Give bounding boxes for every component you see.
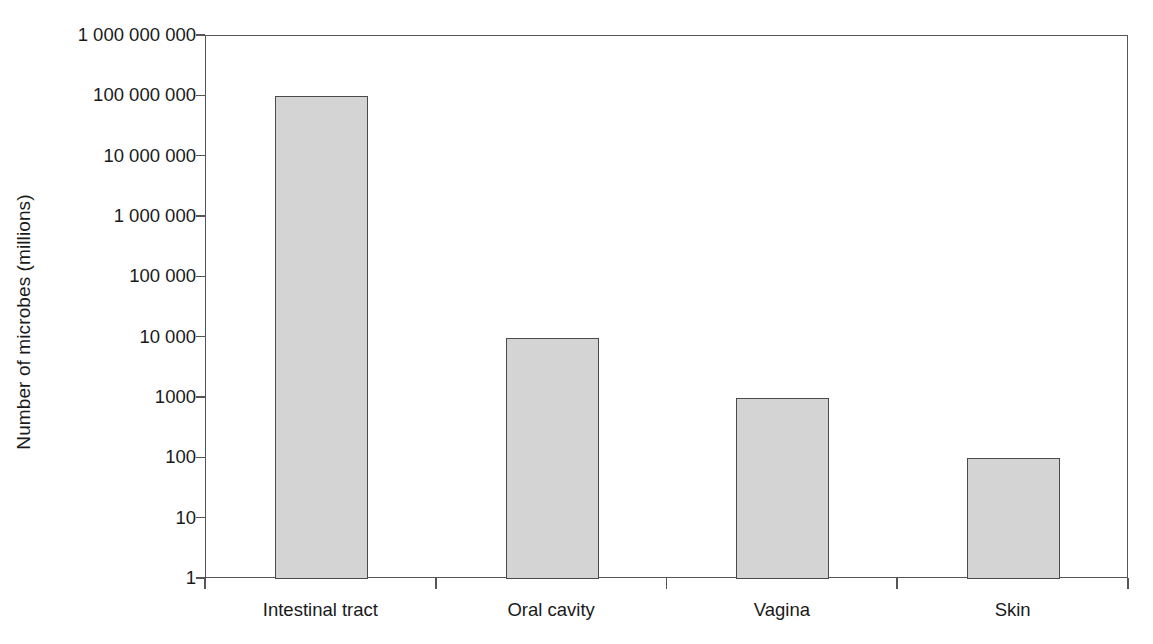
y-tick-mark xyxy=(196,336,205,338)
y-tick-label-text: 100 xyxy=(165,445,196,469)
y-tick-label-text: 10 000 xyxy=(139,325,196,349)
y-tick-mark xyxy=(196,95,205,97)
y-tick-label-text: 100 000 xyxy=(129,264,196,288)
y-tick-mark xyxy=(196,517,205,519)
y-tick-label-text: 1 000 000 xyxy=(114,204,196,228)
y-tick-label-text: 10 xyxy=(175,506,196,530)
y-tick-mark xyxy=(196,34,205,36)
x-category-label: Skin xyxy=(897,596,1128,624)
bar-chart: Number of microbes (millions) 1 000 000 … xyxy=(0,0,1153,644)
y-tick-label: 1 000 000 xyxy=(0,204,196,228)
y-tick-label-text: 1 000 000 000 xyxy=(78,23,196,47)
y-tick-label: 1000 xyxy=(0,385,196,409)
bar xyxy=(506,338,599,579)
y-tick-label: 10 000 xyxy=(0,325,196,349)
x-tick-mark xyxy=(666,578,668,589)
y-tick-mark xyxy=(196,155,205,157)
x-category-label: Oral cavity xyxy=(436,596,667,624)
y-tick-mark xyxy=(196,457,205,459)
x-tick-mark xyxy=(1127,578,1129,589)
x-category-label: Intestinal tract xyxy=(205,596,436,624)
y-tick-label: 100 000 xyxy=(0,264,196,288)
x-category-label: Vagina xyxy=(667,596,898,624)
x-tick-mark xyxy=(204,578,206,589)
y-tick-label: 100 000 000 xyxy=(0,83,196,107)
x-tick-mark xyxy=(435,578,437,589)
bar xyxy=(967,458,1060,579)
bar xyxy=(275,96,368,579)
y-tick-label-text: 10 000 000 xyxy=(103,144,196,168)
y-tick-label-text: 100 000 000 xyxy=(93,83,196,107)
plot-area xyxy=(205,35,1128,578)
y-tick-label: 100 xyxy=(0,445,196,469)
y-tick-label: 10 xyxy=(0,506,196,530)
y-tick-mark xyxy=(196,215,205,217)
bar xyxy=(736,398,829,579)
y-tick-label: 10 000 000 xyxy=(0,144,196,168)
x-tick-mark xyxy=(896,578,898,589)
y-tick-mark xyxy=(196,276,205,278)
y-tick-mark xyxy=(196,396,205,398)
y-tick-label-text: 1000 xyxy=(155,385,196,409)
y-tick-label-text: 1 xyxy=(186,566,196,590)
y-tick-label: 1 xyxy=(0,566,196,590)
y-tick-label: 1 000 000 000 xyxy=(0,23,196,47)
